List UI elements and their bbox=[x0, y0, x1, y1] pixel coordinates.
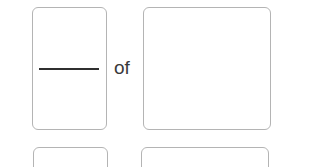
of-label: of bbox=[114, 58, 130, 77]
fraction-box-2[interactable] bbox=[33, 147, 108, 167]
fraction-bar bbox=[39, 68, 99, 70]
whole-number-box[interactable] bbox=[143, 7, 271, 130]
whole-number-box-2[interactable] bbox=[141, 147, 269, 167]
